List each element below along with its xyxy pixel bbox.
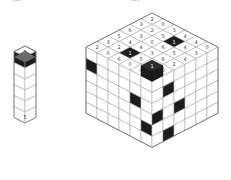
- top-cell-number: 4: [183, 56, 186, 62]
- top-cell-number: 1: [128, 50, 131, 56]
- top-cell-number: 2: [95, 44, 98, 50]
- raised-block-number: 1: [150, 63, 153, 69]
- top-cell-number: 0: [161, 21, 164, 27]
- top-cell-number: 3: [139, 21, 142, 27]
- top-cell-number: 4: [194, 39, 197, 45]
- top-cell-number: 0: [106, 50, 109, 56]
- top-cell-number: 3: [150, 50, 153, 56]
- top-cell-number: 0: [205, 44, 208, 50]
- top-cell-number: 4: [183, 33, 186, 39]
- top-cell-number: 2: [150, 27, 153, 33]
- top-cell-number: 4: [128, 39, 131, 45]
- cube-puzzle-diagram: 203440325143630654544362321560206041125: [0, 0, 231, 180]
- top-cell-number: 6: [128, 27, 131, 33]
- top-cell-number: 1: [172, 39, 175, 45]
- top-cell-number: 3: [106, 39, 109, 45]
- top-cell-number: 4: [139, 44, 142, 50]
- top-cell-number: 6: [161, 56, 164, 62]
- top-cell-number: 5: [161, 33, 164, 39]
- top-cell-number: 2: [172, 61, 175, 67]
- top-cell-number: 5: [139, 56, 142, 62]
- top-cell-number: 3: [172, 27, 175, 33]
- top-cell-number: 4: [183, 44, 186, 50]
- column-bottom-number: 5: [23, 114, 26, 120]
- top-cell-number: 0: [150, 39, 153, 45]
- top-cell-number: 0: [128, 61, 131, 67]
- top-cell-number: 2: [117, 44, 120, 50]
- top-cell-number: 6: [161, 44, 164, 50]
- top-cell-number: 6: [117, 56, 120, 62]
- top-cell-number: 3: [194, 50, 197, 56]
- top-cell-number: 5: [172, 50, 175, 56]
- top-cell-number: 3: [139, 33, 142, 39]
- top-cell-number: 5: [117, 33, 120, 39]
- top-cell-number: 2: [150, 16, 153, 22]
